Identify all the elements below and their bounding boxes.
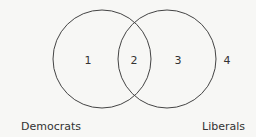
region-4-label: 4 [224,54,231,67]
region-1-label: 1 [85,54,92,67]
democrats-label: Democrats [21,120,81,133]
region-2-label: 2 [131,54,138,67]
venn-diagram: 1 2 3 4 Democrats Liberals [0,0,256,137]
liberals-label: Liberals [202,120,245,133]
region-3-label: 3 [175,54,182,67]
